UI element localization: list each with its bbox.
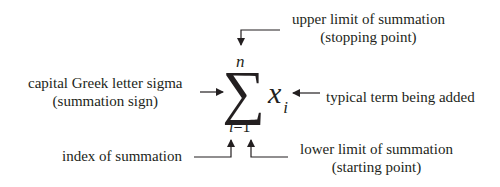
lower-limit-arrow <box>251 140 288 157</box>
arrows-layer <box>0 0 500 187</box>
upper-limit-arrow <box>241 30 280 45</box>
index-arrow <box>194 140 231 157</box>
